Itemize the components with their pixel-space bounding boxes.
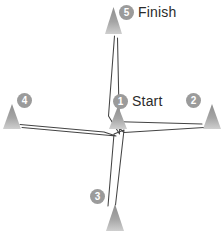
marker-4-badge: 4: [17, 93, 32, 108]
route-leg-south: [108, 130, 124, 206]
cone-markers: [3, 7, 221, 231]
marker-5-badge: 5: [119, 5, 134, 20]
cone-marker-1: [109, 106, 127, 129]
cone-marker-3: [106, 204, 124, 231]
marker-5-label: Finish: [138, 4, 177, 20]
route-path: [20, 36, 204, 206]
marker-2[interactable]: 2: [186, 93, 201, 108]
marker-4[interactable]: 4: [17, 93, 32, 108]
course-path-svg: [0, 0, 224, 236]
cone-marker-2: [203, 104, 221, 129]
marker-3-badge: 3: [90, 189, 105, 204]
marker-2-badge: 2: [186, 93, 201, 108]
course-diagram: 5 Finish 1 Start 2 4 3: [0, 0, 224, 236]
route-leg-west: [20, 125, 116, 137]
marker-1[interactable]: 1 Start: [113, 93, 163, 109]
marker-5[interactable]: 5 Finish: [119, 4, 177, 20]
marker-3[interactable]: 3: [90, 189, 105, 204]
marker-1-label: Start: [132, 93, 163, 109]
marker-1-badge: 1: [113, 94, 128, 109]
